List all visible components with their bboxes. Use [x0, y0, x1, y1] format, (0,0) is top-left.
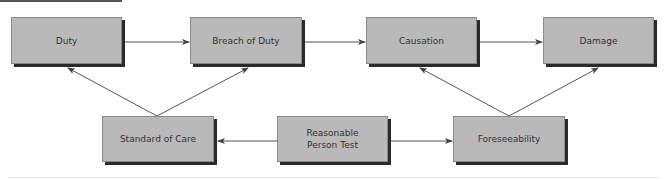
node-breach-of-duty: Breach of Duty	[190, 17, 302, 64]
arrow-standard-to-breach	[157, 68, 248, 116]
top-rule	[0, 0, 122, 2]
node-damage: Damage	[543, 17, 654, 64]
node-duty: Duty	[11, 17, 122, 64]
node-reasonable-person-test: Reasonable Person Test	[277, 116, 388, 162]
arrow-foreseeability-to-damage	[509, 68, 598, 116]
bottom-rule	[8, 177, 658, 178]
node-causation: Causation	[366, 17, 477, 64]
node-foreseeability: Foreseeability	[453, 116, 565, 162]
arrow-foreseeability-to-causation	[420, 68, 509, 116]
node-standard-of-care: Standard of Care	[102, 116, 214, 162]
arrow-standard-to-duty	[68, 68, 157, 116]
